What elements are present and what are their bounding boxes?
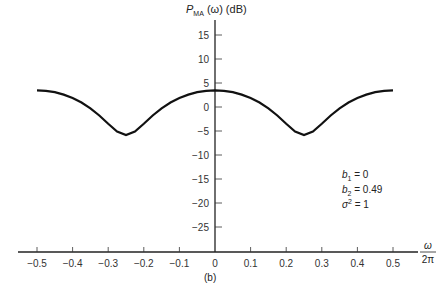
figure-caption: (b) (204, 272, 216, 283)
y-tick-label: 15 (198, 30, 210, 41)
svg-text:ω: ω (424, 240, 432, 251)
parameter-annotations: b1 = 0 b2 = 0.49 σ2 = 1 (342, 169, 383, 210)
x-axis-label: ω 2π (420, 240, 436, 265)
y-tick-label: −10 (192, 150, 209, 161)
x-tick-label: −0.4 (63, 258, 83, 269)
x-tick-label: −0.5 (27, 258, 47, 269)
annotation-b2: b2 = 0.49 (342, 184, 383, 197)
x-tick-label: 0 (212, 258, 218, 269)
y-tick-label: −25 (192, 222, 209, 233)
y-axis-ticks: 151050−5−10−15−20−25 (192, 30, 222, 233)
y-tick-label: −20 (192, 198, 209, 209)
annotation-b1: b1 = 0 (342, 169, 369, 182)
x-tick-label: −0.2 (134, 258, 154, 269)
x-tick-label: −0.3 (98, 258, 118, 269)
y-axis-title: PMA (ω) (dB) (186, 3, 247, 17)
ma-spectrum-chart: −0.5−0.4−0.3−0.2−0.100.10.20.30.40.5 151… (0, 0, 441, 298)
x-tick-label: 0.1 (244, 258, 258, 269)
x-axis-ticks: −0.5−0.4−0.3−0.2−0.100.10.20.30.40.5 (27, 247, 400, 269)
y-tick-label: 10 (198, 54, 210, 65)
x-tick-label: 0.4 (350, 258, 364, 269)
x-tick-label: −0.1 (170, 258, 190, 269)
x-tick-label: 0.2 (279, 258, 293, 269)
axes (18, 20, 418, 252)
y-tick-label: 0 (203, 102, 209, 113)
y-tick-label: 5 (203, 78, 209, 89)
annotation-sigma: σ2 = 1 (342, 198, 369, 210)
y-tick-label: −5 (198, 126, 210, 137)
x-tick-label: 0.3 (315, 258, 329, 269)
svg-text:2π: 2π (422, 254, 435, 265)
x-tick-label: 0.5 (386, 258, 400, 269)
y-tick-label: −15 (192, 174, 209, 185)
